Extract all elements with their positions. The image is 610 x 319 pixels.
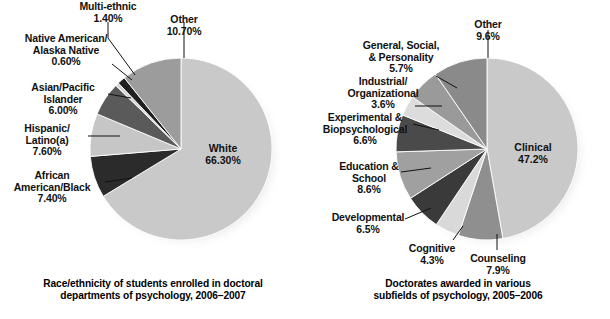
slice-label-counseling: Counseling 7.9% — [464, 253, 532, 276]
slice-label-industrial-organizational: Industrial/ Organizational 3.6% — [334, 76, 432, 111]
chart-panel-doctorate-subfields: Clinical 47.2% Other 9.6% General, Socia… — [305, 0, 610, 319]
slice-label-general-social-personality: General, Social, & Personality 5.7% — [351, 40, 451, 75]
slice-label-developmental: Developmental 6.5% — [325, 212, 411, 235]
slice-label-other: Other 10.70% — [155, 14, 213, 37]
chart-panel-race-ethnicity: White 66.30% Other 10.70% Multi-ethnic 1… — [0, 0, 305, 319]
slice-label-multi-ethnic: Multi-ethnic 1.40% — [65, 1, 151, 24]
chart-caption-race-ethnicity: Race/ethnicity of students enrolled in d… — [8, 278, 298, 303]
slice-label-education-school: Education & School 8.6% — [329, 161, 409, 196]
slice-label-native-american: Native American/ Alaska Native 0.60% — [18, 33, 114, 68]
slice-label-white: White 66.30% — [192, 143, 254, 167]
slice-label-clinical: Clinical 47.2% — [501, 142, 565, 166]
slice-label-experimental-biopsychological: Experimental & Biopsychological 6.6% — [307, 112, 423, 147]
slice-label-hispanic-latino: Hispanic/ Latino(a) 7.60% — [8, 123, 86, 158]
chart-caption-doctorate-subfields: Doctorates awarded in various subfields … — [313, 278, 603, 303]
slice-label-cognitive: Cognitive 4.3% — [401, 243, 463, 266]
slice-label-african-american: African American/Black 7.40% — [1, 170, 103, 205]
two-pie-charts-figure: White 66.30% Other 10.70% Multi-ethnic 1… — [0, 0, 610, 319]
slice-label-other: Other 9.6% — [460, 19, 516, 42]
slice-label-asian-pacific: Asian/Pacific Islander 6.00% — [20, 82, 106, 117]
